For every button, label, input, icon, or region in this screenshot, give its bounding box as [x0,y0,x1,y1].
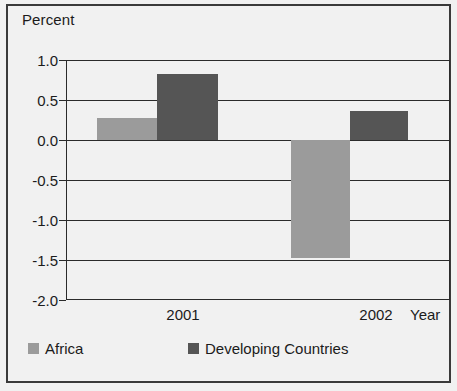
gridline [66,260,450,261]
y-axis-tickmark [59,100,66,101]
chart-figure: Percent 1.00.50.0-0.5-1.0-1.5-2.0 200120… [0,0,457,391]
plot-area [66,60,450,300]
bar-developing-countries-2001 [157,74,218,140]
y-axis-tick-label: 0.5 [37,92,58,109]
y-axis-tickmark [59,220,66,221]
y-axis-tick-label: 0.0 [37,132,58,149]
y-axis-tickmark [59,260,66,261]
y-axis-tick-label: -0.5 [32,172,58,189]
legend-swatch-icon [28,343,39,354]
y-axis-tickmark [59,300,66,301]
legend-label: Developing Countries [205,340,348,357]
gridline [66,220,450,221]
x-axis-tick-labels: 20012002 [0,306,451,330]
bar-africa-2002 [291,140,350,258]
gridline [66,180,450,181]
x-axis-tick-label: 2002 [359,306,392,323]
y-axis-tick-label: -1.0 [32,212,58,229]
legend-label: Africa [45,340,83,357]
bar-africa-2001 [97,118,157,140]
legend-swatch-icon [188,343,199,354]
legend-entry: Africa [28,340,83,357]
bar-developing-countries-2002 [350,111,408,140]
y-axis-tickmark [59,140,66,141]
x-axis-tick-label: 2001 [166,306,199,323]
chart-legend: AfricaDeveloping Countries [28,340,428,362]
y-axis-tick-label: 1.0 [37,52,58,69]
y-axis-tickmark [59,60,66,61]
y-axis-tickmark [59,180,66,181]
y-axis-tick-labels: 1.00.50.0-0.5-1.0-1.5-2.0 [0,60,58,300]
x-axis-title: Year [410,306,440,323]
legend-entry: Developing Countries [188,340,348,357]
zero-axis-line [66,140,450,141]
gridline [66,100,450,101]
y-axis-title: Percent [22,11,74,28]
y-axis-tick-label: -1.5 [32,252,58,269]
